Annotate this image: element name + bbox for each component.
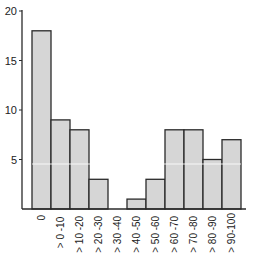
x-tick-label: > 60 -70 [169, 215, 180, 252]
x-tick-label: > 20 -30 [93, 215, 104, 252]
x-tick-label: > 40 -50 [131, 215, 142, 252]
x-tick-label: 0 [36, 215, 47, 221]
x-tick-label: > 50 -60 [150, 215, 161, 252]
bar-2 [70, 130, 89, 209]
histogram-chart: 5101520 0> 0 -10> 10 -20> 20 -30> 30 -40… [0, 0, 255, 260]
x-tick-label: > 0 -10 [55, 216, 66, 248]
y-tick-label: 10 [5, 104, 17, 116]
x-tick-labels: 0> 0 -10> 10 -20> 20 -30> 30 -40> 40 -50… [36, 213, 237, 253]
y-tick-label: 15 [5, 55, 17, 67]
bars-group [32, 31, 241, 209]
bar-8 [184, 130, 203, 209]
bar-9 [203, 160, 222, 210]
y-ticks: 5101520 [5, 5, 22, 166]
x-tick-label: > 70 -80 [188, 215, 199, 252]
x-tick-label: > 80 -90 [207, 215, 218, 252]
x-tick-label: > 10 -20 [74, 215, 85, 252]
bar-5 [127, 199, 146, 209]
bar-3 [89, 179, 108, 209]
x-tick-label: > 90-100 [226, 213, 237, 253]
x-tick-label: > 30 -40 [112, 215, 123, 252]
bar-6 [146, 179, 165, 209]
bar-7 [165, 130, 184, 209]
y-tick-label: 20 [5, 5, 17, 17]
bar-10 [222, 140, 241, 209]
y-tick-label: 5 [11, 154, 17, 166]
bar-0 [32, 31, 51, 209]
